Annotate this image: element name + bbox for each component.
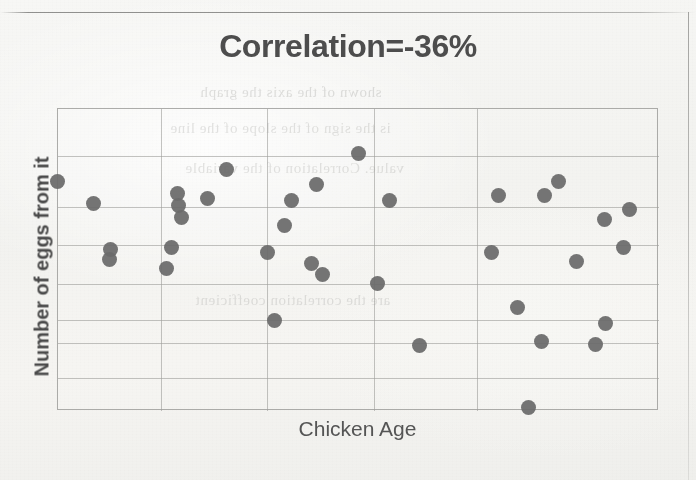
ghost-text-line-1: shown of the axis the graph — [200, 84, 382, 101]
gridline-horizontal — [58, 245, 659, 246]
scatter-point — [260, 245, 275, 260]
scatter-point — [622, 202, 637, 217]
gridline-vertical — [267, 109, 268, 411]
scatter-point — [412, 338, 427, 353]
scatter-point — [219, 162, 234, 177]
scatter-point — [551, 174, 566, 189]
gridline-horizontal — [58, 207, 659, 208]
gridline-horizontal — [58, 320, 659, 321]
scatter-point — [267, 313, 282, 328]
scatter-point — [164, 240, 179, 255]
x-axis-title: Chicken Age — [57, 417, 658, 441]
scatter-point — [491, 188, 506, 203]
scatter-point — [309, 177, 324, 192]
gridline-vertical — [477, 109, 478, 411]
scatter-point — [534, 334, 549, 349]
page-right-edge-line — [688, 12, 689, 480]
scatter-point — [86, 196, 101, 211]
scatter-point — [174, 210, 189, 225]
scatter-point — [370, 276, 385, 291]
scatter-point — [484, 245, 499, 260]
y-axis-title: Number of eggs from it — [31, 137, 54, 397]
scatter-point — [277, 218, 292, 233]
scatter-point — [598, 316, 613, 331]
gridline-horizontal — [58, 343, 659, 344]
scatter-point — [569, 254, 584, 269]
scanned-page: shown of the axis the graph is the sign … — [0, 0, 696, 480]
scatter-point — [588, 337, 603, 352]
page-top-edge-line — [0, 12, 696, 13]
scatter-point — [284, 193, 299, 208]
gridline-horizontal — [58, 378, 659, 379]
gridline-vertical — [161, 109, 162, 411]
scatter-point — [159, 261, 174, 276]
scatter-point — [315, 267, 330, 282]
scatter-point — [537, 188, 552, 203]
scatter-point — [351, 146, 366, 161]
scatter-point — [521, 400, 536, 415]
plot-area — [57, 108, 658, 410]
chart-title: Correlation=-36% — [0, 28, 696, 65]
scatter-point — [382, 193, 397, 208]
gridline-vertical — [374, 109, 375, 411]
scatter-point — [102, 252, 117, 267]
scatter-point — [597, 212, 612, 227]
scatter-point — [200, 191, 215, 206]
scatter-point — [616, 240, 631, 255]
gridline-horizontal — [58, 284, 659, 285]
scatter-point — [510, 300, 525, 315]
